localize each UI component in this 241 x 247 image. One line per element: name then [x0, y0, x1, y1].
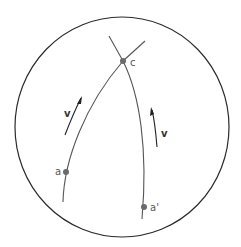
label-velocity-right: v [161, 128, 168, 139]
geodesic-right [109, 36, 144, 219]
label-c: c [130, 57, 136, 68]
label-velocity-left: v [64, 108, 71, 119]
label-a: a [55, 166, 61, 177]
point-a [63, 169, 69, 175]
point-a-prime [141, 204, 147, 210]
velocity-arrow-right [152, 110, 157, 147]
label-a-prime: a' [150, 202, 159, 213]
diagram-canvas: c a a' v v [0, 0, 241, 247]
arrowhead-left-icon [77, 96, 82, 104]
boundary-circle [15, 17, 229, 237]
point-c [120, 58, 126, 64]
